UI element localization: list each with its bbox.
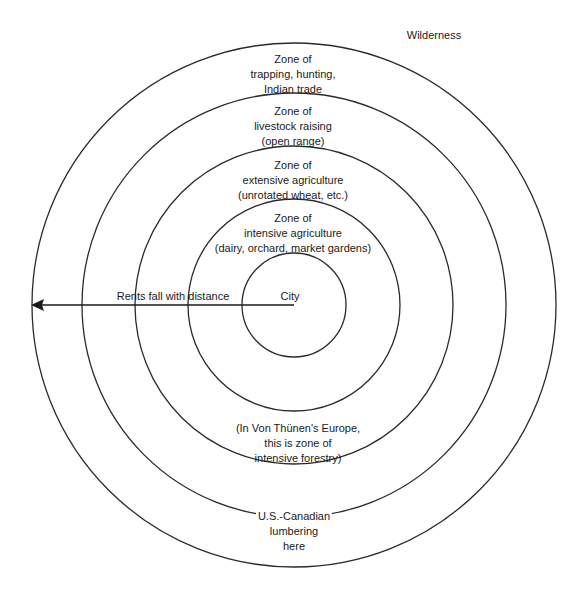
zone-intensive-agriculture-label: Zone of intensive agriculture (dairy, or… <box>215 211 371 256</box>
forestry-line1: (In Von Thünen's Europe, <box>236 421 360 436</box>
zone-livestock-label: Zone of livestock raising (open range) <box>254 104 332 149</box>
zone-trapping-line3: Indian trade <box>250 82 335 97</box>
lumbering-line3: here <box>256 539 332 554</box>
zone-livestock-line2: livestock raising <box>254 119 332 134</box>
zone-intensive-line1: Zone of <box>215 211 371 226</box>
forestry-line2: this is zone of <box>236 436 360 451</box>
zone-extensive-line1: Zone of <box>238 158 348 173</box>
zone-livestock-line1: Zone of <box>254 104 332 119</box>
zone-extensive-agriculture-label: Zone of extensive agriculture (unrotated… <box>238 158 348 203</box>
arrow-label: Rents fall with distance <box>117 289 230 304</box>
zone-extensive-line3: (unrotated wheat, etc.) <box>238 188 348 203</box>
zone-trapping-label: Zone of trapping, hunting, Indian trade <box>250 52 335 97</box>
city-label: City <box>281 289 300 304</box>
city-text: City <box>281 289 300 304</box>
lumbering-line2: lumbering <box>256 524 332 539</box>
forestry-note: (In Von Thünen's Europe, this is zone of… <box>236 421 360 466</box>
wilderness-text: Wilderness <box>407 28 461 43</box>
zone-trapping-line2: trapping, hunting, <box>250 67 335 82</box>
zone-trapping-line1: Zone of <box>250 52 335 67</box>
rents-fall-text: Rents fall with distance <box>117 289 230 304</box>
zone-intensive-line2: intensive agriculture <box>215 226 371 241</box>
zone-extensive-line2: extensive agriculture <box>238 173 348 188</box>
lumbering-line1: U.S.-Canadian <box>256 509 332 524</box>
forestry-line3: intensive forestry) <box>236 451 360 466</box>
wilderness-label: Wilderness <box>407 28 461 43</box>
lumbering-note: U.S.-Canadian lumbering here <box>256 509 332 554</box>
zone-livestock-line3: (open range) <box>254 134 332 149</box>
zone-intensive-line3: (dairy, orchard, market gardens) <box>215 241 371 256</box>
